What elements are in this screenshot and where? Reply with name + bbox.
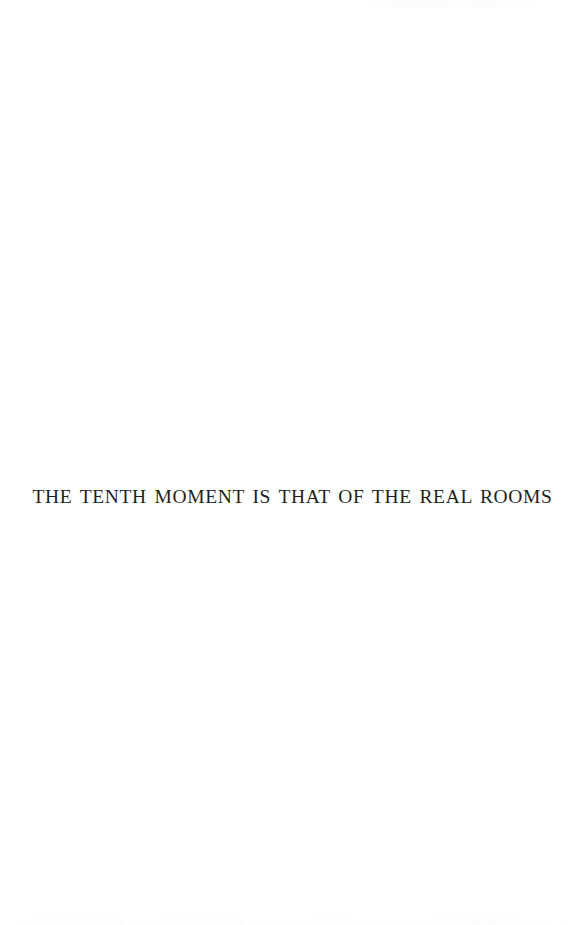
section-title: THE TENTH MOMENT IS THAT OF THE REAL ROO… — [0, 485, 580, 509]
scan-artifact-bottom-edge — [0, 919, 580, 925]
scan-artifact-top-edge — [0, 0, 580, 7]
scanned-page: THE TENTH MOMENT IS THAT OF THE REAL ROO… — [0, 0, 580, 925]
